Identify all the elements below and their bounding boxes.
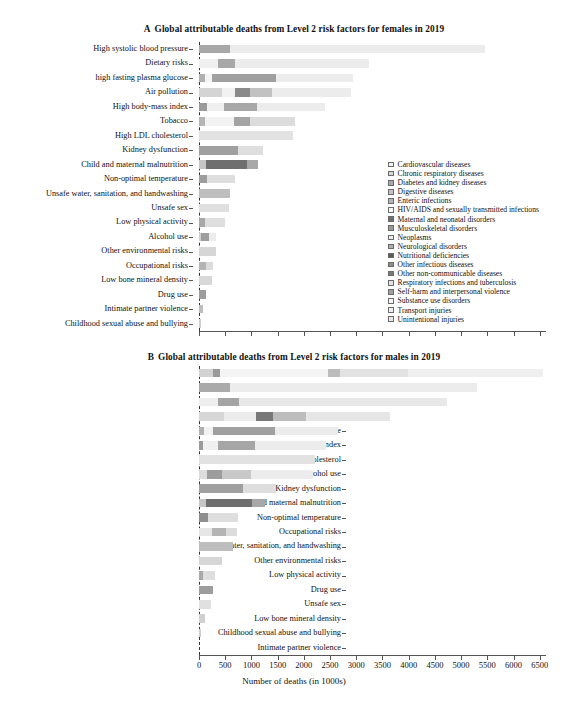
bar-row [199,511,545,525]
legend-item[interactable]: Self-harm and interpersonal violence [388,287,588,296]
y-axis-tick [189,280,193,281]
y-axis-tick [189,266,193,267]
legend-item[interactable]: Chronic respiratory diseases [388,169,588,178]
y-axis-tick [189,64,193,65]
bar-segment [408,369,543,378]
stacked-bar [199,189,230,198]
y-axis-tick [189,107,193,108]
y-axis-label: Low physical activity [0,215,193,229]
x-axis-tick [409,332,410,336]
bar-segment [199,600,211,609]
legend-item[interactable]: Transport injuries [388,306,588,315]
legend-item[interactable]: HIV/AIDS and sexually transmitted infect… [388,205,588,214]
stacked-bar [199,59,369,68]
legend-label: Respiratory infections and tuberculosis [398,278,517,287]
legend-item[interactable]: Musculoskeletal disorders [388,224,588,233]
bar-row [199,143,545,157]
bar-segment [222,470,251,479]
bar-segment [230,45,485,54]
bar-row [199,56,545,70]
bar-row [199,395,545,409]
legend-item[interactable]: Other non-communicable diseases [388,269,588,278]
panel-b-title-text: Global attributable deaths from Level 2 … [158,352,440,362]
bar-segment [218,441,255,450]
legend-item[interactable]: Nutritional deficiencies [388,251,588,260]
bar-row [199,525,545,539]
y-axis-label: Occupational risks [0,259,193,273]
bar-segment [199,262,206,271]
bar-segment [238,146,264,155]
panel-b-plot-area [199,366,545,655]
legend-item[interactable]: Enteric infections [388,196,588,205]
panel-b-letter: B [148,352,154,362]
legend-swatch [388,271,394,277]
legend-label: Chronic respiratory diseases [398,169,484,178]
bar-segment [199,484,243,493]
legend-label: Diabetes and kidney diseases [398,178,487,187]
legend-item[interactable]: Digestive diseases [388,187,588,196]
bar-row [199,568,545,582]
stacked-bar [199,160,258,169]
stacked-bar [199,247,216,256]
legend-item[interactable]: Respiratory infections and tuberculosis [388,278,588,287]
y-axis-label: high fasting plasma glucose [0,71,193,85]
stacked-bar [199,455,315,464]
stacked-bar [199,131,293,140]
y-axis-label: Other environmental risks [0,244,193,258]
bar-segment [250,88,272,97]
x-axis-tick-labels: 0500100015002000250030003500400045005000… [0,660,588,674]
bar-segment [199,247,216,256]
y-axis-label: Low bone mineral density [0,273,193,287]
bar-segment [272,88,351,97]
stacked-bar [199,470,313,479]
bar-segment [199,59,218,68]
bar-segment [201,233,209,242]
legend-item[interactable]: Neoplasms [388,233,588,242]
legend-label: HIV/AIDS and sexually transmitted infect… [398,205,539,214]
legend-label: Enteric infections [398,196,452,205]
bar-segment [230,383,476,392]
legend-swatch [388,225,394,231]
legend-swatch [388,207,394,213]
legend-swatch [388,289,394,295]
y-axis-label: Intimate partner violence [0,302,193,316]
bar-row [199,626,545,640]
stacked-bar [199,103,325,112]
legend-item[interactable]: Maternal and neonatal disorders [388,215,588,224]
stacked-bar [199,218,225,227]
legend-swatch [388,235,394,241]
bar-segment [255,441,327,450]
stacked-bar [199,513,238,522]
stacked-bar [199,88,351,97]
bar-segment [213,369,220,378]
stacked-bar [199,398,447,407]
bar-segment [340,369,408,378]
legend-swatch [388,298,394,304]
x-axis-tick-label: 6500 [520,660,560,670]
stacked-bar [199,614,205,623]
y-axis-label: Non-optimal temperature [0,172,193,186]
bar-segment [247,160,257,169]
bar-row [199,539,545,553]
stacked-bar [199,276,212,285]
legend-label: Other infectious diseases [398,260,474,269]
bar-segment [226,528,237,537]
stacked-bar [199,262,213,271]
bar-segment [199,455,315,464]
bar-segment [205,218,225,227]
legend-item[interactable]: Substance use disorders [388,296,588,305]
bar-row [199,366,545,380]
y-axis-label: Child and maternal malnutrition [0,158,193,172]
y-axis-tick [189,252,193,253]
legend-swatch [388,198,394,204]
bar-segment [199,45,230,54]
legend-item[interactable]: Other infectious diseases [388,260,588,269]
bar-segment [205,117,234,126]
stacked-bar [199,427,338,436]
legend-item[interactable]: Neurological disorders [388,242,588,251]
legend-item[interactable]: Unintentional injuries [388,315,588,324]
legend-item[interactable]: Cardiovascular diseases [388,160,588,169]
bar-segment [199,103,207,112]
stacked-bar [199,600,211,609]
legend-item[interactable]: Diabetes and kidney diseases [388,178,588,187]
